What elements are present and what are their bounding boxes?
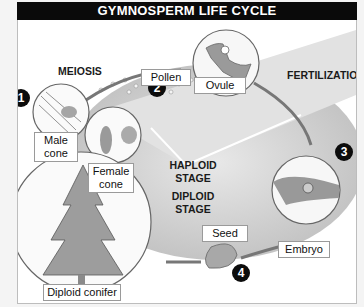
seed-shape xyxy=(205,244,237,268)
pollen-label: Pollen xyxy=(141,69,191,86)
fertilization-label: FERTILIZATION xyxy=(286,69,357,82)
female-cone-label: Female cone xyxy=(88,163,134,193)
diploid-conifer-label: Diploid conifer xyxy=(43,284,121,301)
diagram-panel: MEIOSIS FERTILIZATION HAPLOID STAGE DIPL… xyxy=(17,20,357,304)
ovule-label: Ovule xyxy=(194,77,246,94)
meiosis-label: MEIOSIS xyxy=(50,65,110,78)
step-3-badge: 3 xyxy=(335,143,353,161)
male-cone-label: Male cone xyxy=(34,132,78,162)
diagram-title: GYMNOSPERM LIFE CYCLE xyxy=(17,2,357,20)
embryo-label: Embryo xyxy=(278,241,330,258)
step-4-badge: 4 xyxy=(232,264,250,282)
diploid-stage-label: DIPLOID STAGE xyxy=(158,190,228,216)
haploid-stage-label: HAPLOID STAGE xyxy=(158,159,228,185)
seed-label: Seed xyxy=(202,225,248,242)
